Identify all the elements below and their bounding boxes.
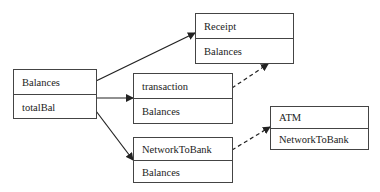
class-title: Balances: [14, 70, 96, 95]
class-box-networktobank[interactable]: NetworkToBank Balances: [133, 137, 233, 183]
class-title: transaction: [134, 74, 232, 99]
class-title: ATM: [271, 107, 368, 129]
class-title: NetworkToBank: [134, 138, 232, 161]
class-member: Balances: [134, 99, 232, 124]
class-title: Receipt: [196, 14, 293, 39]
class-box-atm[interactable]: ATM NetworkToBank: [270, 106, 369, 150]
edge-networktobank-atm: [232, 127, 270, 150]
class-member: Balances: [196, 39, 293, 64]
edge-balances-networktobank: [96, 111, 133, 160]
class-box-balances[interactable]: Balances totalBal: [13, 69, 97, 119]
class-member: Balances: [134, 161, 232, 183]
class-box-receipt[interactable]: Receipt Balances: [195, 13, 294, 64]
edge-transaction-receipt: [232, 64, 268, 88]
class-member: totalBal: [14, 95, 96, 119]
class-member: NetworkToBank: [271, 129, 368, 150]
class-box-transaction[interactable]: transaction Balances: [133, 73, 233, 124]
